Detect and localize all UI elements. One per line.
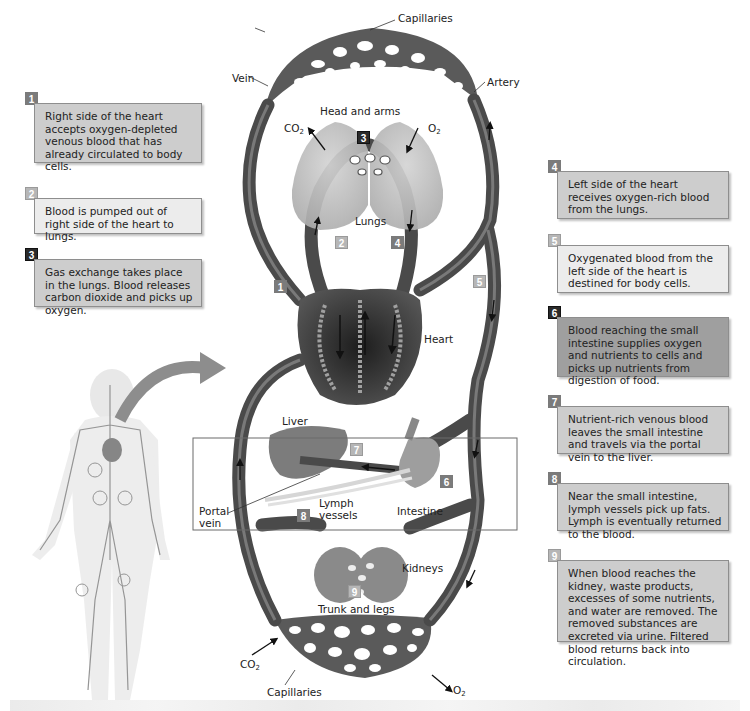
label-co2-top: CO2 [284, 122, 304, 138]
pointer-arrow [120, 367, 205, 420]
step-note-8: Near the small intestine, lymph vessels … [557, 483, 729, 531]
diagram-badge-1: 1 [274, 280, 287, 293]
diagram-badge-9: 9 [348, 585, 361, 598]
label-portal-vein: Portalvein [199, 505, 229, 529]
label-trunk-and-legs: Trunk and legs [318, 603, 395, 615]
label-vein: Vein [232, 72, 254, 84]
step-note-1: Right side of the heart accepts oxygen-d… [34, 103, 202, 163]
human-body-illustration [32, 369, 170, 700]
step-note-7: Nutrient-rich venous blood leaves the sm… [557, 406, 729, 454]
label-co2-bottom: CO2 [240, 658, 260, 674]
step-note-5: Oxygenated blood from the left side of t… [557, 245, 729, 293]
step-note-6: Blood reaching the small intestine suppl… [557, 317, 729, 377]
label-kidneys: Kidneys [402, 562, 443, 574]
label-lymph-vessels: Lymphvessels [319, 497, 357, 521]
circulatory-figure: Capillaries Vein Artery Head and arms CO… [0, 0, 750, 711]
diagram-badge-4: 4 [391, 236, 404, 249]
diagram-badge-3: 3 [357, 131, 370, 144]
capillary-bed-top [265, 28, 478, 108]
capillary-bed-bottom [275, 614, 431, 678]
label-lungs: Lungs [355, 215, 386, 227]
step-note-2: Blood is pumped out of right side of the… [34, 198, 202, 234]
label-heart: Heart [424, 333, 453, 345]
heart-illustration [298, 289, 423, 405]
label-o2-bottom: O2 [453, 684, 466, 700]
step-note-4: Left side of the heart receives oxygen-r… [557, 171, 729, 219]
diagram-badge-2: 2 [335, 236, 348, 249]
label-liver: Liver [282, 415, 308, 427]
label-head-and-arms: Head and arms [320, 105, 400, 117]
step-note-9: When blood reaches the kidney, waste pro… [557, 560, 729, 642]
step-note-3: Gas exchange takes place in the lungs. B… [34, 259, 202, 307]
figure-caption-cropped [10, 700, 740, 711]
diagram-badge-6: 6 [440, 475, 453, 488]
label-intestine: Intestine [397, 505, 443, 517]
label-capillaries-top: Capillaries [398, 12, 453, 24]
diagram-badge-5: 5 [473, 275, 486, 288]
label-artery: Artery [487, 76, 520, 88]
label-capillaries-bottom: Capillaries [267, 686, 322, 698]
label-o2-top: O2 [428, 122, 441, 138]
diagram-badge-7: 7 [350, 443, 363, 456]
diagram-badge-8: 8 [297, 509, 310, 522]
